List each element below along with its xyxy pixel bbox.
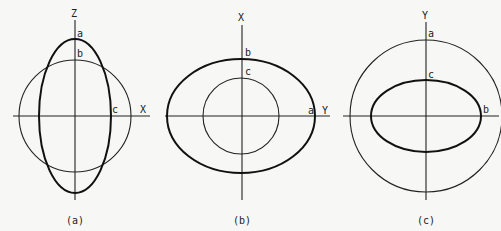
axis-label-horizontal: Y [322,105,328,116]
point-label-a: a [308,105,314,116]
panel-caption: (b) [233,215,251,226]
panel-a: Z X a b c (a) [13,8,150,226]
axis-label-vertical: Y [422,10,428,21]
point-label-b: b [77,48,83,59]
point-label-a: a [77,28,83,39]
axis-label-vertical: Z [71,8,77,19]
point-label-c: c [112,104,118,115]
point-label-b: b [245,47,251,58]
point-label-a: a [428,28,434,39]
panel-caption: (c) [417,215,435,226]
point-label-b: b [483,104,489,115]
diagram-figure: Z X a b c (a) X Y b c a (b) Y a c b (c) [0,0,501,231]
panel-caption: (a) [66,215,84,226]
axis-label-vertical: X [238,12,244,23]
panel-c: Y a c b (c) [343,10,501,226]
point-label-c: c [245,66,251,77]
axis-label-horizontal: X [140,104,146,115]
point-label-c: c [428,69,434,80]
diagram-canvas: Z X a b c (a) X Y b c a (b) Y a c b (c) [0,0,501,231]
panel-b: X Y b c a (b) [165,12,330,226]
